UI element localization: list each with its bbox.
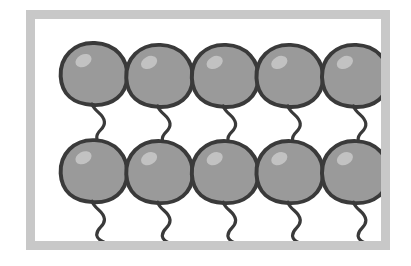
balloon-tail	[158, 202, 177, 241]
balloon-body	[61, 140, 128, 202]
balloon-body	[126, 45, 193, 107]
balloon-body	[192, 141, 259, 203]
balloon	[322, 141, 381, 241]
balloon	[126, 141, 193, 241]
balloon-body	[256, 45, 323, 107]
balloon	[256, 141, 323, 241]
balloon-body	[322, 45, 381, 107]
balloon-tail	[353, 202, 372, 241]
balloon-body	[192, 45, 259, 107]
balloon-body	[126, 141, 193, 203]
balloon-body	[61, 43, 128, 105]
balloon-canvas	[35, 19, 381, 241]
balloon-tail	[92, 201, 111, 241]
balloon-body	[256, 141, 323, 203]
picture-frame	[26, 10, 390, 250]
balloon-body	[322, 141, 381, 203]
balloon	[61, 140, 128, 241]
illustration-root	[0, 0, 411, 266]
balloon-tail	[223, 202, 242, 241]
balloon-tail	[288, 202, 307, 241]
balloon	[192, 141, 259, 241]
